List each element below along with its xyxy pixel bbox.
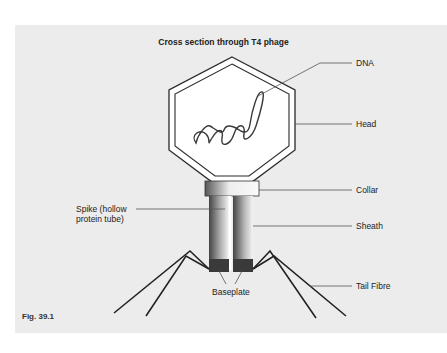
- label-spike-line1: Spike (hollow: [76, 204, 127, 214]
- label-spike: Spike (hollow protein tube): [76, 204, 127, 224]
- collar: [205, 181, 259, 196]
- label-sheath: Sheath: [356, 221, 383, 231]
- label-spike-line2: protein tube): [76, 214, 127, 224]
- head-capsid: [169, 57, 295, 182]
- sheath-left: [209, 196, 229, 262]
- figure-caption: Fig. 39.1: [22, 312, 54, 321]
- label-tail-fibre: Tail Fibre: [356, 281, 390, 291]
- t4-phage-diagram: [0, 0, 447, 353]
- label-dna: DNA: [356, 58, 374, 68]
- baseplate-right: [233, 259, 253, 272]
- sheath-right: [233, 196, 253, 262]
- label-head: Head: [356, 119, 376, 129]
- label-baseplate: Baseplate: [212, 287, 250, 297]
- label-collar: Collar: [356, 185, 378, 195]
- baseplate-left: [209, 259, 229, 272]
